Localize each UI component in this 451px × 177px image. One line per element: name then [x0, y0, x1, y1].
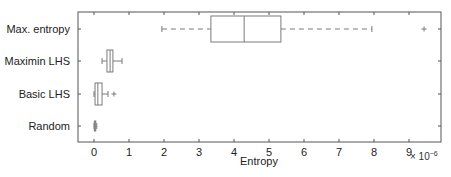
x-tick-label: 7 [336, 146, 342, 158]
plot-area: 0123456789Max. entropyMaximin LHSBasic L… [5, 12, 441, 158]
x-tick-label: 6 [301, 146, 307, 158]
x-axis-label: Entropy [240, 155, 278, 167]
boxplot-chart: 0123456789Max. entropyMaximin LHSBasic L… [0, 0, 451, 177]
x-tick-label: 3 [196, 146, 202, 158]
y-tick-label: Random [28, 120, 70, 132]
x-tick-label: 4 [231, 146, 237, 158]
y-tick-label: Max. entropy [6, 23, 70, 35]
box [95, 83, 102, 105]
y-tick-label: Basic LHS [19, 88, 70, 100]
x-tick-label: 2 [161, 146, 167, 158]
x-axis-multiplier: × 10−6 [410, 150, 438, 162]
x-tick-label: 1 [126, 146, 132, 158]
box [211, 16, 281, 42]
x-tick-label: 8 [371, 146, 377, 158]
x-tick-label: 0 [91, 146, 97, 158]
y-tick-label: Maximin LHS [5, 55, 70, 67]
